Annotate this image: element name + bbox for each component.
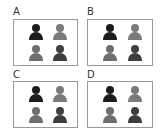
option-label: B xyxy=(87,7,94,17)
person-icon xyxy=(53,24,67,40)
person-icon xyxy=(103,45,117,61)
person-icon xyxy=(128,24,142,40)
person-icon xyxy=(29,107,43,123)
option-box[interactable] xyxy=(13,19,78,66)
option-box[interactable] xyxy=(87,81,153,128)
person-icon xyxy=(53,86,67,102)
option-label: D xyxy=(87,70,95,80)
person-icon xyxy=(128,45,142,61)
person-icon xyxy=(103,86,117,102)
person-icon xyxy=(103,107,117,123)
option-label: C xyxy=(13,70,20,80)
person-icon xyxy=(128,86,142,102)
person-icon xyxy=(29,45,43,61)
person-icon xyxy=(128,107,142,123)
person-icon xyxy=(29,86,43,102)
person-icon xyxy=(53,107,67,123)
option-label: A xyxy=(13,7,20,17)
person-icon xyxy=(53,45,67,61)
option-box[interactable] xyxy=(13,81,78,128)
person-icon xyxy=(29,24,43,40)
option-box[interactable] xyxy=(87,19,153,66)
person-icon xyxy=(103,24,117,40)
